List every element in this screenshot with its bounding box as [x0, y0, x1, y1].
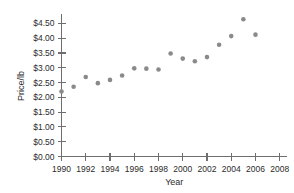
- y-axis-tick-label-group: $0.00$0.50$1.00$1.50$2.00$2.50$3.00$3.50…: [33, 18, 55, 161]
- x-axis-tick-label-group: 1990199219941996199820002002200420062008: [52, 164, 289, 174]
- data-point: [120, 73, 125, 78]
- y-axis-tick-label: $2.50: [33, 78, 55, 88]
- y-axis-tick-label: $2.00: [33, 92, 55, 102]
- data-point: [108, 78, 113, 83]
- x-axis-tick-label: 1992: [76, 164, 95, 174]
- data-point-group: [59, 17, 258, 94]
- y-axis-tick-label: $0.50: [33, 137, 55, 147]
- y-axis-tick-label: $4.00: [33, 33, 55, 43]
- data-point: [71, 84, 76, 89]
- data-point: [156, 67, 161, 72]
- x-axis-tick-label: 1998: [149, 164, 168, 174]
- y-axis-tick-label: $1.00: [33, 122, 55, 132]
- data-point: [193, 59, 198, 64]
- x-axis-tick-label: 2000: [173, 164, 192, 174]
- data-point: [180, 56, 185, 61]
- y-axis-tick-label: $4.50: [33, 18, 55, 28]
- y-axis-tick-label: $3.50: [33, 48, 55, 58]
- x-axis-title: Year: [165, 177, 183, 187]
- data-point: [96, 81, 101, 86]
- data-point: [229, 34, 234, 39]
- x-axis-tick-label: 1994: [101, 164, 120, 174]
- price-per-pound-scatter-chart: $0.00$0.50$1.00$1.50$2.00$2.50$3.00$3.50…: [0, 0, 294, 193]
- data-point: [83, 75, 88, 80]
- y-axis-tick-label: $1.50: [33, 107, 55, 117]
- x-axis-tick-label: 2008: [270, 164, 289, 174]
- data-point: [253, 32, 258, 37]
- chart-plot-area: $0.00$0.50$1.00$1.50$2.00$2.50$3.00$3.50…: [0, 0, 294, 193]
- x-axis-tick-label: 2002: [198, 164, 217, 174]
- data-point: [144, 66, 149, 71]
- x-axis-tick-label: 2006: [246, 164, 265, 174]
- data-point: [217, 42, 222, 47]
- x-axis-tick-label: 1996: [125, 164, 144, 174]
- x-axis-tick-label: 2004: [222, 164, 241, 174]
- y-axis-title: Price/lb: [16, 71, 26, 101]
- data-point: [168, 51, 173, 56]
- y-axis-tick-label: $3.00: [33, 63, 55, 73]
- x-axis-tick-label: 1990: [52, 164, 71, 174]
- y-axis-tick-label: $0.00: [33, 152, 55, 162]
- data-point: [59, 89, 64, 94]
- data-point: [241, 17, 246, 22]
- data-point: [132, 66, 137, 71]
- data-point: [205, 55, 210, 60]
